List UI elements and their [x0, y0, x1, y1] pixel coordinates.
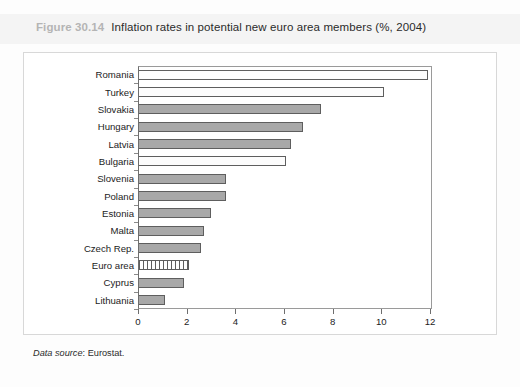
bar-euro-area — [138, 260, 189, 270]
bar-row — [138, 291, 432, 308]
y-axis-tick — [134, 309, 138, 310]
y-axis-tick — [134, 135, 138, 136]
category-label-bulgaria: Bulgaria — [40, 153, 134, 170]
category-label-malta: Malta — [40, 222, 134, 239]
x-axis-tick — [187, 309, 188, 314]
y-axis-tick — [134, 292, 138, 293]
bar-row — [138, 83, 432, 100]
x-axis-tick — [381, 309, 382, 314]
x-axis-tick-label: 6 — [281, 316, 286, 327]
bar-poland — [138, 191, 226, 201]
bar-romania — [138, 70, 428, 80]
bar-bulgaria — [138, 156, 286, 166]
bar-row — [138, 205, 432, 222]
x-axis-tick-label: 8 — [330, 316, 335, 327]
bar-row — [138, 135, 432, 152]
y-axis-tick — [134, 153, 138, 154]
x-axis-tick-label: 12 — [425, 316, 436, 327]
data-source-label: Data source — [33, 348, 83, 358]
x-axis-tick-label: 10 — [376, 316, 387, 327]
category-label-latvia: Latvia — [40, 135, 134, 152]
x-axis-tick-label: 0 — [135, 316, 140, 327]
bar-row — [138, 239, 432, 256]
bar-latvia — [138, 139, 291, 149]
bar-estonia — [138, 208, 211, 218]
category-label-hungary: Hungary — [40, 118, 134, 135]
x-axis-tick-label: 4 — [233, 316, 238, 327]
bar-czech-rep — [138, 243, 201, 253]
category-label-slovakia: Slovakia — [40, 101, 134, 118]
x-axis-tick-labels: 024681012 — [0, 316, 520, 330]
bar-row — [138, 187, 432, 204]
x-axis-ticks — [138, 309, 432, 315]
category-label-turkey: Turkey — [40, 83, 134, 100]
x-axis-tick-label: 2 — [184, 316, 189, 327]
plot-area — [138, 66, 432, 309]
category-label-poland: Poland — [40, 187, 134, 204]
x-axis-tick — [430, 309, 431, 314]
data-source-note: Data source: Eurostat. — [33, 348, 124, 358]
figure-caption: Inflation rates in potential new euro ar… — [111, 21, 426, 33]
category-label-lithuania: Lithuania — [40, 291, 134, 308]
y-axis-tick — [134, 257, 138, 258]
bar-cyprus — [138, 278, 184, 288]
x-axis-tick — [284, 309, 285, 314]
bar-row — [138, 222, 432, 239]
y-axis-tick — [134, 118, 138, 119]
bar-row — [138, 274, 432, 291]
y-axis-tick — [134, 222, 138, 223]
bar-lithuania — [138, 295, 165, 305]
bar-row — [138, 153, 432, 170]
x-axis-tick — [138, 309, 139, 314]
category-label-slovenia: Slovenia — [40, 170, 134, 187]
y-axis-tick — [134, 274, 138, 275]
category-axis-labels: RomaniaTurkeySlovakiaHungaryLatviaBulgar… — [40, 66, 134, 309]
y-axis-tick — [134, 101, 138, 102]
data-source-value: : Eurostat. — [83, 348, 125, 358]
category-label-estonia: Estonia — [40, 205, 134, 222]
y-axis-tick — [134, 188, 138, 189]
figure-page: Figure 30.14Inflation rates in potential… — [0, 0, 520, 387]
x-axis-tick — [235, 309, 236, 314]
y-axis-tick — [134, 83, 138, 84]
bar-turkey — [138, 87, 384, 97]
bar-slovenia — [138, 174, 226, 184]
figure-number: Figure 30.14 — [36, 21, 104, 33]
y-axis-tick — [134, 240, 138, 241]
page-title: Figure 30.14Inflation rates in potential… — [36, 21, 426, 33]
bar-hungary — [138, 122, 303, 132]
category-label-cyprus: Cyprus — [40, 274, 134, 291]
bar-malta — [138, 226, 204, 236]
category-label-euro-area: Euro area — [40, 257, 134, 274]
y-axis-tick — [134, 205, 138, 206]
bar-row — [138, 257, 432, 274]
y-axis-tick — [134, 170, 138, 171]
bar-row — [138, 170, 432, 187]
bar-row — [138, 101, 432, 118]
bar-slovakia — [138, 104, 321, 114]
category-label-romania: Romania — [40, 66, 134, 83]
bar-series — [138, 66, 432, 309]
bar-row — [138, 66, 432, 83]
x-axis-tick — [333, 309, 334, 314]
category-label-czech-rep: Czech Rep. — [40, 239, 134, 256]
bar-row — [138, 118, 432, 135]
